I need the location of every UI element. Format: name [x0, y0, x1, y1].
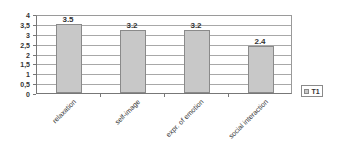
y-tick-mark	[33, 35, 36, 36]
y-tick-mark	[33, 94, 36, 95]
y-tick-label: 3,5	[20, 21, 30, 28]
y-tick-mark	[33, 64, 36, 65]
x-category-label: social interaction	[227, 98, 269, 140]
y-tick-label: 1	[26, 71, 30, 78]
y-tick-label: 0	[26, 91, 30, 98]
y-tick-mark	[33, 84, 36, 85]
x-category-label: self-image	[113, 98, 141, 126]
legend-label: T1	[311, 88, 319, 95]
bar-value-label: 3.5	[55, 15, 81, 24]
legend-swatch-t1	[304, 89, 309, 94]
x-category-label: expr. of emotion	[165, 98, 205, 138]
y-tick-label: 1,5	[20, 61, 30, 68]
bar-social-interaction	[248, 46, 274, 93]
y-tick-label: 2	[26, 51, 30, 58]
legend: T1	[301, 85, 323, 97]
y-tick-mark	[33, 74, 36, 75]
bar-value-label: 3.2	[183, 21, 209, 30]
y-tick-mark	[33, 25, 36, 26]
x-tick-mark	[100, 94, 101, 97]
bar-value-label: 3.2	[119, 21, 145, 30]
bar-self-image	[120, 30, 146, 93]
bar-value-label: 2.4	[247, 37, 273, 46]
y-tick-label: 2,5	[20, 41, 30, 48]
plot-area	[36, 15, 292, 94]
y-tick-label: 4	[26, 12, 30, 19]
x-tick-mark	[228, 94, 229, 97]
y-tick-mark	[33, 15, 36, 16]
y-tick-label: 0,5	[20, 81, 30, 88]
bar-relaxation	[56, 24, 82, 93]
y-tick-mark	[33, 45, 36, 46]
bar-expr-of-emotion	[184, 30, 210, 93]
x-tick-mark	[164, 94, 165, 97]
y-tick-mark	[33, 55, 36, 56]
bar-chart: T1 00,511,522,533,543.5relaxation3.2self…	[0, 0, 342, 162]
x-category-label: relaxation	[51, 98, 77, 124]
y-tick-label: 3	[26, 31, 30, 38]
